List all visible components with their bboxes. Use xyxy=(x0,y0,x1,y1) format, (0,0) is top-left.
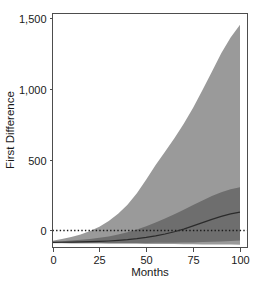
chart-figure: 05001,0001,500 0255075100 First Differen… xyxy=(0,0,264,281)
x-tick-label: 0 xyxy=(50,254,56,266)
y-tick-label: 1,000 xyxy=(19,84,47,96)
x-tick-label: 25 xyxy=(93,254,105,266)
x-axis-title: Months xyxy=(131,266,169,278)
y-tick-label: 500 xyxy=(28,155,46,167)
y-tick-label: 1,500 xyxy=(19,13,47,25)
first-difference-chart: 05001,0001,500 0255075100 First Differen… xyxy=(0,0,264,281)
x-axis-ticks: 0255075100 xyxy=(50,248,249,266)
y-axis-ticks: 05001,0001,500 xyxy=(19,13,53,237)
y-tick-label: 0 xyxy=(40,225,46,237)
x-tick-label: 50 xyxy=(140,254,152,266)
x-tick-label: 75 xyxy=(187,254,199,266)
x-tick-label: 100 xyxy=(231,254,249,266)
y-axis-title: First Difference xyxy=(4,91,16,169)
